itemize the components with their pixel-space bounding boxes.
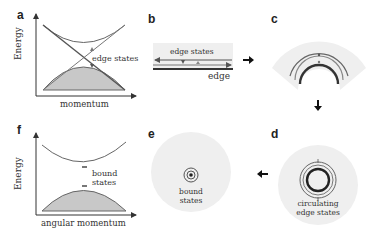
lower-band [42, 191, 126, 212]
annotation-edge-states: edge states [170, 47, 214, 56]
annotation-circulating-edge-states: circulating edge states [296, 199, 340, 217]
panel-label-e: e [148, 127, 155, 141]
annotation-edge-states: edge states [92, 54, 138, 63]
arrow-right-icon [243, 56, 254, 64]
upper-band [42, 142, 126, 162]
axis-label-angular-momentum: angular momentum [41, 218, 126, 228]
panel-label-a: a [17, 8, 24, 22]
annotation-bound-states: bound states [171, 187, 211, 205]
axis-label-energy: Energy [13, 157, 23, 190]
panel-label-c: c [271, 12, 278, 26]
panel-f-plot [36, 133, 136, 215]
arrow-down-icon [314, 100, 322, 111]
up-arrow-icon [90, 47, 94, 51]
label-edge: edge [208, 71, 230, 81]
axis-label-momentum: momentum [60, 99, 109, 109]
axis-label-energy: Energy [13, 27, 23, 60]
valence-band [43, 67, 125, 90]
panel-c-arc [272, 42, 366, 90]
annotation-bound-states: bound states [92, 169, 117, 187]
arc-marker [318, 61, 320, 63]
panel-label-b: b [148, 12, 155, 26]
arc-marker [318, 54, 320, 56]
center-dot [189, 173, 193, 177]
arrow-left-icon [257, 170, 268, 178]
panel-label-d: d [271, 127, 278, 141]
bound-state-level [82, 185, 87, 187]
conduction-band [43, 25, 125, 43]
panel-label-f: f [17, 123, 21, 137]
bound-state-level [82, 166, 87, 168]
